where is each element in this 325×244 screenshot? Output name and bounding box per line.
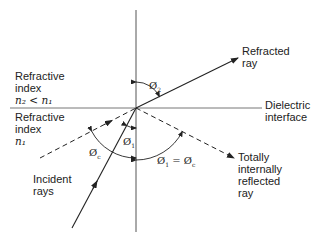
refracted-ray-line2: ray [242,57,290,69]
lower-medium-index: n₁ [15,135,65,147]
reflected-ray-line1: Totally [238,151,282,163]
upper-medium-line2: index [15,82,65,94]
reflected-ray-line3: reflected [238,175,282,187]
tir-diagram: Refractive index n₂ < n₁ Refractive inde… [0,0,325,244]
lower-medium-label: Refractive index n₁ [15,111,65,147]
reflected-ray-line4: ray [238,187,282,199]
angle-phi2-label: Ø2 [149,80,161,93]
angle-arc-phi1 [127,126,136,128]
incident-rays-line1: Incident [33,173,72,185]
refracted-ray-line1: Refracted [242,45,290,57]
interface-label: Dielectric interface [265,99,310,123]
critical-ray-arrow-icon [104,121,112,125]
reflected-ray [136,108,234,158]
incident-rays-line2: rays [33,185,72,197]
upper-medium-label: Refractive index n₂ < n₁ [15,70,65,106]
upper-medium-line1: Refractive [15,70,65,82]
reflected-ray-line2: internally [238,163,282,175]
upper-medium-index: n₂ < n₁ [15,94,65,106]
angle-phic-label: Øc [89,147,101,160]
reflected-ray-label: Totally internally reflected ray [238,151,282,199]
interface-line1: Dielectric [265,99,310,111]
interface-line2: interface [265,111,310,123]
lower-medium-line2: index [15,123,65,135]
incident-ray-arrow-icon [93,181,97,189]
lower-medium-line1: Refractive [15,111,65,123]
angle-reflection-label: Ø1 = Øc [157,155,195,168]
angle-phi1-label: Ø1 [123,136,135,149]
incident-rays-label: Incident rays [33,173,72,197]
refracted-ray-label: Refracted ray [242,45,290,69]
